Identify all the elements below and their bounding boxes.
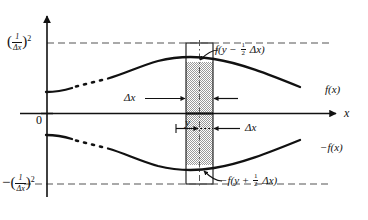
upper-value-annotation: f(y − 12 Δx) [215,43,265,59]
upper-asymptote-numerator: 1 [12,33,22,42]
figure-canvas [0,0,368,220]
upper-value-half-fraction: 12 [241,42,247,58]
upper-asymptote-label: (1Δx)2 [7,34,31,53]
upper-asymptote-exponent: 2 [27,34,31,43]
lower-asymptote-fraction: 1Δx [15,174,25,193]
lower-value-half-denominator: 2 [253,181,259,189]
curve-f-of-x [46,57,300,92]
upper-value-half-denominator: 2 [241,50,247,58]
upper-asymptote-denominator: Δx [12,43,22,52]
lower-value-half-fraction: 12 [253,173,259,189]
curve-minus-f-of-x [46,135,300,170]
lower-asymptote-numerator: 1 [15,174,25,183]
upper-value-suffix: Δx) [247,43,265,55]
upper-asymptote-fraction: 1Δx [12,33,22,52]
lower-value-annotation: −f(y + 12 Δx) [220,174,277,190]
lower-asymptote-label: −(1Δx)2 [2,175,35,194]
lower-value-suffix: Δx) [259,174,277,186]
delta-x-label-upper: Δx [124,92,135,103]
origin-label: 0 [36,114,42,126]
math-figure: (1Δx)2 −(1Δx)2 0 x f(x) −f(x) f(y − 12 Δ… [0,0,368,220]
y-position-label: y [185,117,190,128]
delta-x-label-lower: Δx [245,122,256,133]
upper-value-prefix: f(y − [215,43,240,55]
curve-label-f-of-x: f(x) [325,84,340,95]
lower-asymptote-exponent: 2 [31,175,35,184]
curve-label-minus-f-of-x: −f(x) [320,142,343,153]
lower-value-prefix: −f(y + [220,174,252,186]
x-axis-label: x [344,107,349,119]
lower-asymptote-denominator: Δx [15,184,25,193]
